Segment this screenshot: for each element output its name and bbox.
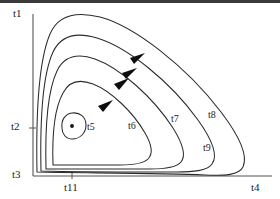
phase-portrait-plot (0, 0, 280, 199)
flow-arrow-1 (130, 53, 145, 64)
flow-arrow-3 (114, 78, 129, 90)
orbit-label-t7: t7 (171, 114, 179, 124)
figure-canvas: t1 t2 t3 t4 t11 t5 t6 t7 t8 t9 (0, 0, 280, 199)
flow-arrow-2 (122, 68, 137, 79)
orbit-curve-t8 (37, 14, 245, 175)
axis-tick-label-t11: t11 (64, 182, 78, 193)
orbit-curve-t5 (62, 113, 86, 139)
axis-label-t3: t3 (12, 169, 21, 180)
orbit-label-t6: t6 (128, 121, 136, 131)
axis-label-t4: t4 (251, 182, 260, 193)
orbit-curve-t9 (41, 35, 215, 172)
axis-label-t1: t1 (13, 8, 22, 19)
flow-arrow-4 (98, 100, 113, 112)
orbit-curve-t7 (46, 56, 184, 169)
fixed-point-dot (70, 124, 74, 128)
orbit-label-t9: t9 (203, 143, 211, 153)
axis-label-t2: t2 (11, 121, 20, 132)
orbit-curves-group (37, 14, 245, 175)
orbit-label-t5: t5 (87, 122, 95, 132)
orbit-curve-t6 (53, 81, 151, 165)
orbit-label-t8: t8 (208, 110, 216, 120)
